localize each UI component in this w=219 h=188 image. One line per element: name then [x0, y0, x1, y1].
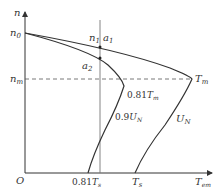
tick-nm: nm [10, 73, 23, 86]
point-a2 [99, 57, 102, 60]
y-axis-label: n [14, 7, 20, 18]
tick-n0: n0 [10, 27, 21, 40]
tick-081ts: 0.81Ts [72, 177, 101, 188]
label-n1: n1 [89, 32, 100, 45]
label-tm: Tm [195, 73, 209, 86]
label-a1: a1 [103, 32, 113, 45]
label-081tm: 0.81Tm [127, 90, 159, 101]
curve-09un [25, 33, 124, 173]
label-a2: a2 [82, 60, 93, 73]
origin-label: O [16, 175, 24, 186]
curve-un [25, 33, 192, 173]
torque-speed-diagram: n n0 nm O n1 a1 a2 0.81Tm Tm 0.9UN UN 0.… [0, 0, 219, 188]
tick-ts: Ts [132, 176, 143, 188]
point-a1 [99, 46, 102, 49]
x-axis-label: Tem [195, 176, 211, 188]
label-09un: 0.9UN [115, 112, 143, 123]
label-un: UN [176, 113, 191, 126]
